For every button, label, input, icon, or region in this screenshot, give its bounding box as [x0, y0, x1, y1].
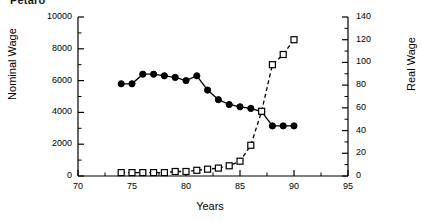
- data-point-marker: [140, 71, 146, 77]
- data-point-marker: [291, 123, 297, 129]
- data-point-marker: [140, 170, 146, 176]
- data-point-marker: [129, 81, 135, 87]
- data-point-marker: [194, 73, 200, 79]
- data-series-layer: [118, 37, 297, 176]
- data-point-marker: [237, 104, 243, 110]
- data-point-marker: [161, 170, 167, 176]
- data-point-marker: [280, 123, 286, 129]
- data-point-marker: [259, 108, 265, 114]
- data-point-marker: [161, 73, 167, 79]
- data-point-marker: [151, 170, 157, 176]
- data-point-marker: [151, 71, 157, 77]
- data-point-marker: [226, 163, 232, 169]
- axis-lines: [78, 17, 348, 176]
- data-point-marker: [183, 169, 189, 175]
- data-point-marker: [269, 123, 275, 129]
- series-line-real-wage: [121, 40, 294, 173]
- data-point-marker: [205, 87, 211, 93]
- data-point-marker: [248, 142, 254, 148]
- data-point-marker: [194, 167, 200, 173]
- data-point-marker: [291, 37, 297, 43]
- data-point-marker: [129, 170, 135, 176]
- data-point-marker: [215, 97, 221, 103]
- data-point-marker: [269, 62, 275, 68]
- data-point-marker: [118, 170, 124, 176]
- data-point-marker: [226, 101, 232, 107]
- data-point-marker: [205, 166, 211, 172]
- chart-figure: Petaro Nominal Wage Real Wage Years 0200…: [0, 0, 423, 221]
- data-point-marker: [172, 74, 178, 80]
- data-point-marker: [183, 78, 189, 84]
- plot-area: [0, 0, 423, 221]
- data-point-marker: [280, 52, 286, 58]
- data-point-marker: [248, 105, 254, 111]
- data-point-marker: [172, 169, 178, 175]
- data-point-marker: [215, 165, 221, 171]
- data-point-marker: [237, 158, 243, 164]
- data-point-marker: [118, 81, 124, 87]
